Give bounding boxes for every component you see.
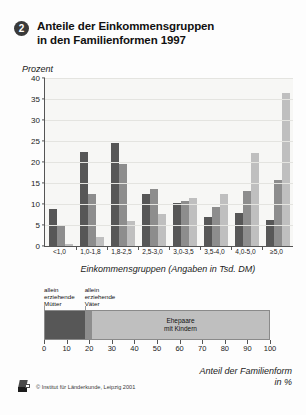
gridline <box>45 225 293 226</box>
bar <box>212 207 220 246</box>
y-tick-mark <box>42 77 45 78</box>
stacked-tick-label: 40 <box>130 344 138 353</box>
stacked-bar: Ehepaare mit Kindern <box>44 310 270 340</box>
page-title: Anteile der Einkommensgruppen in den Fam… <box>37 20 214 47</box>
gridline <box>45 141 293 142</box>
x-tick-label: 1,0-1,8 <box>75 248 106 255</box>
stacked-tick-label: 50 <box>153 344 161 353</box>
segment-callout: allein erziehende Väter <box>85 286 116 308</box>
figure-page: 2 Anteile der Einkommensgruppen in den F… <box>0 0 306 415</box>
gridline <box>45 78 293 79</box>
stacked-tick-label: 10 <box>62 344 70 353</box>
gridline <box>45 204 293 205</box>
figure-number-badge: 2 <box>14 21 29 36</box>
stacked-segment <box>85 311 92 339</box>
footer: © Institut für Länderkunde, Leipzig 2001 <box>18 380 135 393</box>
x-tick-label: 2,5-3,0 <box>137 248 168 255</box>
y-tick-label: 15 <box>31 179 40 188</box>
bar <box>204 217 212 246</box>
y-tick-mark <box>42 182 45 183</box>
gridline <box>45 183 293 184</box>
gridline <box>45 99 293 100</box>
stacked-tick-label: 0 <box>42 344 46 353</box>
y-tick-mark <box>42 119 45 120</box>
y-tick-mark <box>42 203 45 204</box>
y-tick-mark <box>42 140 45 141</box>
bar <box>49 209 57 246</box>
bar <box>282 93 290 246</box>
stacked-bar-chart: Ehepaare mit Kindern <box>44 310 270 340</box>
y-tick-label: 10 <box>31 200 40 209</box>
bar <box>150 189 158 246</box>
y-axis-label: Prozent <box>22 64 53 74</box>
stacked-segment <box>45 311 85 339</box>
bar <box>80 152 88 246</box>
x-tick-label: 3,0-3,5 <box>168 248 199 255</box>
segment-callout: allein erziehende Mütter <box>44 286 75 308</box>
copyright-text: © Institut für Länderkunde, Leipzig 2001 <box>36 384 135 390</box>
x-tick-label: 4,0-5,0 <box>230 248 261 255</box>
stacked-tick-label: 30 <box>108 344 116 353</box>
y-tick-mark <box>42 161 45 162</box>
y-tick-label: 20 <box>31 158 40 167</box>
x-axis-tick-labels: <1,01,0-1,81,8-2,52,5-3,03,0-3,53,5-4,04… <box>44 248 292 255</box>
title-line-1: Anteile der Einkommensgruppen <box>37 20 214 34</box>
stacked-axis-title-line-1: Anteil der Familienform <box>199 366 292 377</box>
stacked-tick-label: 90 <box>243 344 251 353</box>
bar <box>235 213 243 246</box>
bar <box>111 143 119 246</box>
x-tick-label: 1,8-2,5 <box>106 248 137 255</box>
grouped-bar-chart: 0510152025303540 <1,01,0-1,81,8-2,52,5-3… <box>22 78 294 258</box>
title-line-2: in den Familienformen 1997 <box>37 34 214 48</box>
stacked-tick-label: 80 <box>221 344 229 353</box>
x-tick-label: ≥5,0 <box>261 248 292 255</box>
bar <box>119 164 127 246</box>
y-tick-mark <box>42 224 45 225</box>
y-tick-label: 5 <box>36 221 40 230</box>
bar <box>220 194 228 247</box>
stacked-tick-label: 70 <box>198 344 206 353</box>
stacked-segment: Ehepaare mit Kindern <box>92 311 269 339</box>
stacked-bar-axis: 0102030405060708090100 <box>44 340 270 354</box>
stacked-bar-axis-title: Anteil der Familienform in % <box>199 366 292 388</box>
y-tick-label: 0 <box>36 242 40 251</box>
stacked-bar-callouts: allein erziehende Mütterallein erziehend… <box>44 286 270 310</box>
bar <box>181 201 189 246</box>
y-tick-label: 30 <box>31 116 40 125</box>
bar <box>251 153 259 246</box>
y-tick-label: 25 <box>31 137 40 146</box>
gridline <box>45 162 293 163</box>
segment-label: Ehepaare mit Kindern <box>164 317 197 333</box>
bar <box>88 194 96 246</box>
figure-header: 2 Anteile der Einkommensgruppen in den F… <box>14 20 214 47</box>
bar <box>243 191 251 246</box>
stacked-axis-title-line-2: in % <box>199 377 292 388</box>
bar <box>266 220 274 246</box>
bar <box>96 237 104 246</box>
y-tick-mark <box>42 98 45 99</box>
stacked-tick-label: 60 <box>175 344 183 353</box>
bar <box>158 214 166 246</box>
y-tick-label: 40 <box>31 74 40 83</box>
x-tick-label: 3,5-4,0 <box>199 248 230 255</box>
bar <box>142 194 150 247</box>
gridline <box>45 120 293 121</box>
plot-area: 0510152025303540 <box>44 78 293 247</box>
y-tick-mark <box>42 245 45 246</box>
y-tick-label: 35 <box>31 95 40 104</box>
stacked-tick-label: 100 <box>264 344 277 353</box>
bar <box>274 180 282 246</box>
stacked-tick-label: 20 <box>85 344 93 353</box>
bar <box>57 226 65 246</box>
bar <box>65 244 73 246</box>
x-axis-title: Einkommensgruppen (Angaben in Tsd. DM) <box>22 264 306 274</box>
ifl-logo-icon <box>18 380 31 393</box>
x-tick-label: <1,0 <box>44 248 75 255</box>
